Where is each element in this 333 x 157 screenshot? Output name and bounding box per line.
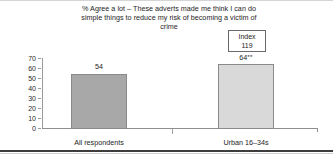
bar-urban-16-34s[interactable] [218,64,274,129]
index-callout-label: Index [229,32,265,41]
y-axis-tick-mark-40 [38,88,41,89]
category-separator-tick [172,129,173,134]
index-callout-box: Index 119 [228,30,266,52]
chart-figure: % Agree a lot – These adverts made me th… [0,0,333,157]
y-axis-line [42,58,43,128]
figure-bottom-rule [0,150,333,152]
x-axis-category-label-all-respondents: All respondents [51,138,147,147]
y-axis-tick-label-60: 60 [14,65,36,72]
y-axis-tick-label-10: 10 [14,115,36,122]
bar-value-urban-16-34s: 64** [218,53,274,62]
significance-marker: ** [247,53,252,60]
y-axis-tick-mark-10 [38,118,41,119]
y-axis-tick-label-0: 0 [14,125,36,132]
y-axis-tick-mark-20 [38,108,41,109]
bar-value-all-respondents: 54 [71,63,127,71]
y-axis-tick-label-20: 20 [14,105,36,112]
index-callout-value: 119 [229,41,265,50]
y-axis-tick-label-30: 30 [14,95,36,102]
x-axis-category-label-urban-16-34s: Urban 16–34s [198,138,294,147]
y-axis-tick-mark-50 [38,78,41,79]
x-axis-end-tick [317,128,318,132]
y-axis-tick-mark-60 [38,68,41,69]
y-axis-tick-mark-70 [38,58,41,59]
y-axis-tick-mark-30 [38,98,41,99]
plot-area: 70 60 50 40 30 20 10 0 54 64** Index 119 [0,0,333,157]
y-axis-tick-label-50: 50 [14,75,36,82]
y-axis-tick-label-40: 40 [14,85,36,92]
bar-all-respondents[interactable] [71,74,127,129]
figure-bottom-rule-secondary [0,153,333,154]
y-axis-tick-mark-0 [38,128,41,129]
y-axis-tick-label-70: 70 [14,55,36,62]
